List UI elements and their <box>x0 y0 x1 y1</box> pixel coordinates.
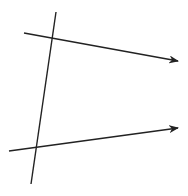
lower-ray <box>9 128 178 151</box>
diagram-canvas <box>0 0 188 196</box>
upper-ray <box>24 33 178 61</box>
